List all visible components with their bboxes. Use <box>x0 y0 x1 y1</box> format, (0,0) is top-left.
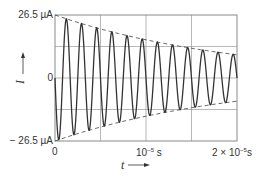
y-tick-top-label: 26.5 µA <box>3 10 53 20</box>
x-tick-end-label: 2 × 10−5s <box>212 147 252 158</box>
y-axis-arrow-icon <box>21 52 25 74</box>
y-tick-zero-label: 0 <box>3 73 53 83</box>
x-axis-arrow-icon <box>128 163 150 167</box>
x-tick-zero-label: 0 <box>52 147 58 157</box>
y-tick-bottom-label: − 26.5 µA <box>3 136 53 146</box>
x-tick-mid-label: 10−5 s <box>136 147 162 158</box>
x-axis-label: t <box>121 159 124 171</box>
y-axis-label: I <box>14 80 26 84</box>
